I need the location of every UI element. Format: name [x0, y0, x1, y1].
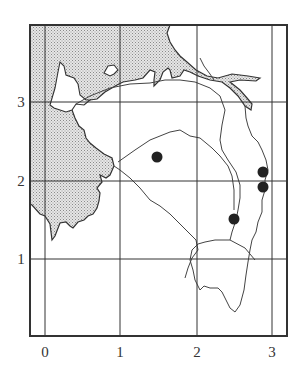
x-label-0: 0 [41, 344, 49, 360]
boundary-inner [118, 130, 234, 210]
y-label-2: 2 [17, 173, 25, 189]
shaded-landmass [30, 25, 260, 240]
x-label-2: 2 [193, 344, 201, 360]
x-label-1: 1 [116, 344, 124, 360]
point-2 [258, 167, 269, 178]
point-3 [258, 182, 269, 193]
river-southwest [114, 166, 198, 278]
y-label-1: 1 [17, 251, 25, 267]
point-4 [229, 214, 240, 225]
x-label-3: 3 [268, 344, 276, 360]
river-east [190, 106, 268, 312]
map-figure: 0 1 2 3 1 2 3 [0, 0, 307, 380]
y-label-3: 3 [17, 94, 25, 110]
point-1 [152, 152, 163, 163]
